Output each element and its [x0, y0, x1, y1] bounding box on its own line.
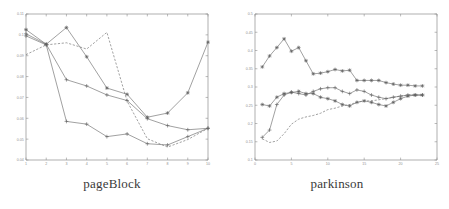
svg-text:0.25: 0.25: [246, 104, 253, 108]
svg-text:10: 10: [206, 162, 210, 166]
svg-text:8: 8: [167, 162, 169, 166]
svg-text:0.2: 0.2: [248, 122, 253, 126]
svg-text:10: 10: [326, 162, 330, 166]
svg-text:7: 7: [146, 162, 148, 166]
svg-text:3: 3: [65, 162, 67, 166]
svg-text:0.05: 0.05: [17, 138, 24, 142]
svg-text:0.08: 0.08: [17, 75, 24, 79]
svg-text:0.1: 0.1: [19, 33, 24, 37]
plot-area-parkinson: 0.10.150.20.250.30.350.40.450.5051015202…: [225, 0, 449, 178]
line-chart-pageblock: 0.040.050.060.070.080.090.10.11123456789…: [0, 0, 224, 178]
svg-text:5: 5: [106, 162, 108, 166]
svg-text:0.09: 0.09: [17, 54, 24, 58]
chart-panel-parkinson: 0.10.150.20.250.30.350.40.450.5051015202…: [225, 0, 449, 209]
svg-text:0.45: 0.45: [246, 31, 253, 35]
svg-text:20: 20: [399, 162, 403, 166]
svg-text:6: 6: [126, 162, 128, 166]
chart-panel-pageblock: 0.040.050.060.070.080.090.10.11123456789…: [0, 0, 224, 209]
svg-text:0.07: 0.07: [17, 96, 24, 100]
plot-area-pageblock: 0.040.050.060.070.080.090.10.11123456789…: [0, 0, 224, 178]
svg-text:2: 2: [45, 162, 47, 166]
svg-text:0.11: 0.11: [17, 12, 24, 16]
svg-text:5: 5: [290, 162, 292, 166]
svg-text:15: 15: [362, 162, 366, 166]
svg-text:0.35: 0.35: [246, 67, 253, 71]
svg-text:0: 0: [254, 162, 256, 166]
svg-text:0.15: 0.15: [246, 140, 253, 144]
svg-text:1: 1: [25, 162, 27, 166]
chart-caption-pageblock: pageBlock: [0, 176, 224, 192]
svg-text:0.1: 0.1: [248, 158, 253, 162]
svg-text:0.3: 0.3: [248, 85, 253, 89]
svg-text:0.04: 0.04: [17, 158, 24, 162]
svg-text:9: 9: [187, 162, 189, 166]
svg-text:0.5: 0.5: [248, 12, 253, 16]
svg-text:0.4: 0.4: [248, 49, 253, 53]
svg-text:0.06: 0.06: [17, 117, 24, 121]
svg-text:25: 25: [435, 162, 439, 166]
line-chart-parkinson: 0.10.150.20.250.30.350.40.450.5051015202…: [225, 0, 449, 178]
svg-text:4: 4: [86, 162, 88, 166]
chart-caption-parkinson: parkinson: [225, 176, 449, 192]
figure-sheet: 0.040.050.060.070.080.090.10.11123456789…: [0, 0, 449, 209]
